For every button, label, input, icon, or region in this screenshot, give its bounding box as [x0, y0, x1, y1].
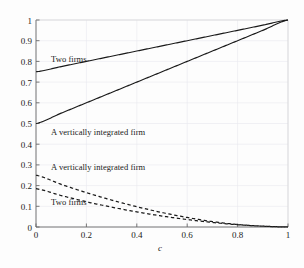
y-tick-label-0.2: 0.2 — [4, 181, 32, 191]
annotation-two-firms-solid: Two firms — [51, 54, 87, 64]
y-tick-label-0.3: 0.3 — [4, 160, 32, 170]
y-tick-label-1.0: 1 — [4, 16, 32, 26]
x-tick-label-0: 0 — [26, 230, 46, 240]
y-tick-label-0.1: 0.1 — [4, 202, 32, 212]
y-tick-label-0.4: 0.4 — [4, 140, 32, 150]
y-tick-label-0.7: 0.7 — [4, 78, 32, 88]
chart-figure: 1 0.9 0.8 0.7 0.6 0.5 0.4 0.3 0.2 0.1 0 … — [0, 0, 304, 268]
annotation-vi-firm-dashed: A vertically integrated firm — [51, 162, 145, 172]
y-tick-label-0.9: 0.9 — [4, 36, 32, 46]
y-tick-label-0.6: 0.6 — [4, 98, 32, 108]
annotation-vi-firm-solid: A vertically integrated firm — [51, 127, 145, 137]
x-tick-label-0.8: 0.8 — [228, 230, 248, 240]
y-tick-label-0.5: 0.5 — [4, 119, 32, 129]
x-axis-title: c — [158, 243, 162, 253]
annotation-two-firms-dashed: Two firms — [51, 197, 87, 207]
x-tick-label-0.4: 0.4 — [127, 230, 147, 240]
x-tick-label-0.6: 0.6 — [177, 230, 197, 240]
x-tick-label-1: 1 — [278, 230, 298, 240]
x-tick-label-0.2: 0.2 — [76, 230, 96, 240]
y-tick-label-0.8: 0.8 — [4, 57, 32, 67]
plot-canvas — [0, 0, 304, 268]
